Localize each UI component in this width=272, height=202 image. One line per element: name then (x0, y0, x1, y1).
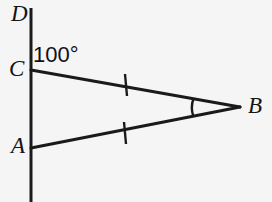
vertex-label-c: C (9, 57, 24, 80)
segment-AB (31, 107, 240, 148)
vertex-label-b: B (248, 94, 262, 117)
segment-CB (31, 70, 240, 107)
angle-arc-b-icon (192, 99, 194, 118)
angle-measure-label: 100° (33, 44, 79, 66)
geometry-canvas (0, 0, 272, 202)
tick-mark-cb-icon (125, 74, 127, 96)
vertex-label-a: A (11, 134, 25, 157)
geometry-figure: D C A B 100° (0, 0, 272, 202)
vertex-label-d: D (11, 2, 28, 25)
tick-mark-ab-icon (124, 122, 126, 144)
